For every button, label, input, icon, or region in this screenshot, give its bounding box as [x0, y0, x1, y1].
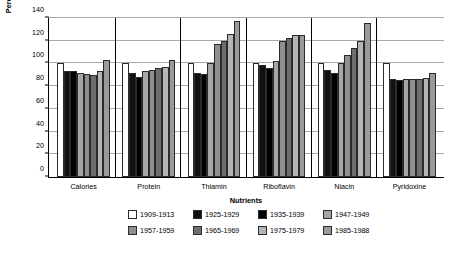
- bar: [324, 70, 331, 177]
- bar: [149, 70, 156, 177]
- legend-item[interactable]: 1957-1959: [128, 226, 193, 235]
- y-tick-label: 100: [14, 50, 44, 59]
- bar: [403, 79, 410, 177]
- bar: [279, 41, 286, 177]
- bar: [57, 63, 64, 177]
- bar: [90, 75, 97, 177]
- bar: [383, 63, 390, 177]
- legend-swatch: [128, 226, 137, 235]
- x-tick-label: Protein: [137, 182, 160, 191]
- y-tick-label: 0: [14, 164, 44, 173]
- bar: [416, 79, 423, 177]
- bar: [292, 35, 299, 177]
- bar-chart-figure: Percentage of 1909–1913 Values 020406080…: [0, 0, 460, 253]
- bar: [155, 68, 162, 177]
- y-tick-label: 120: [14, 27, 44, 36]
- y-tick-label: 140: [14, 5, 44, 14]
- bar: [423, 78, 430, 177]
- bar: [77, 73, 84, 177]
- legend-item[interactable]: 1975-1979: [258, 226, 323, 235]
- y-tick-label: 40: [14, 118, 44, 127]
- x-tick-label: Calories: [70, 182, 96, 191]
- bar: [390, 79, 397, 177]
- legend-label: 1935-1939: [270, 210, 304, 219]
- legend-swatch: [193, 210, 202, 219]
- legend-swatch: [323, 210, 332, 219]
- legend-label: 1965-1969: [205, 226, 239, 235]
- legend-swatch: [128, 210, 137, 219]
- bar: [221, 41, 228, 177]
- y-tick-label: 80: [14, 73, 44, 82]
- legend-swatch: [193, 226, 202, 235]
- bar: [234, 21, 241, 177]
- x-tick-label: Niacin: [334, 182, 354, 191]
- bar: [331, 73, 338, 177]
- legend-swatch: [258, 210, 267, 219]
- bar: [97, 71, 104, 177]
- legend-label: 1985-1988: [335, 226, 369, 235]
- bar: [129, 73, 136, 177]
- bar: [357, 41, 364, 177]
- y-tick-label: 20: [14, 141, 44, 150]
- bar: [194, 73, 201, 177]
- bar: [103, 60, 110, 177]
- bar: [64, 71, 71, 177]
- legend-label: 1975-1979: [270, 226, 304, 235]
- legend-swatch: [323, 226, 332, 235]
- legend-item[interactable]: 1909-1913: [128, 210, 193, 219]
- x-tick-label: Pyridoxine: [393, 182, 427, 191]
- bar-group: Niacin: [312, 18, 377, 177]
- bar: [207, 63, 214, 177]
- legend-label: 1925-1929: [205, 210, 239, 219]
- bar: [396, 80, 403, 177]
- bar: [338, 63, 345, 177]
- bar-group: Thiamin: [181, 18, 246, 177]
- legend-swatch: [258, 226, 267, 235]
- bar: [70, 71, 77, 177]
- bar-group: Calories: [51, 18, 116, 177]
- legend-label: 1909-1913: [140, 210, 174, 219]
- bar: [214, 44, 221, 177]
- bar: [266, 68, 273, 177]
- bar: [142, 71, 149, 177]
- bar: [253, 63, 260, 177]
- bar: [364, 23, 371, 177]
- bar: [136, 77, 143, 177]
- legend-label: 1947-1949: [335, 210, 369, 219]
- bar-group: Pyridoxine: [377, 18, 442, 177]
- bar: [169, 60, 176, 177]
- legend-label: 1957-1959: [140, 226, 174, 235]
- bar: [409, 79, 416, 177]
- y-tick-label: 60: [14, 95, 44, 104]
- legend: 1909-19131925-19291935-19391947-19491957…: [128, 210, 388, 235]
- bar: [259, 65, 266, 177]
- x-axis-title: Nutrients: [48, 196, 444, 205]
- x-tick-label: Riboflavin: [263, 182, 295, 191]
- bar-group: Protein: [116, 18, 181, 177]
- bar-group: Riboflavin: [247, 18, 312, 177]
- bar: [122, 63, 129, 177]
- legend-item[interactable]: 1925-1929: [193, 210, 258, 219]
- bar: [318, 63, 325, 177]
- plot-area: 020406080100120140 CaloriesProteinThiami…: [48, 18, 444, 178]
- legend-item[interactable]: 1935-1939: [258, 210, 323, 219]
- bar: [351, 48, 358, 177]
- bar: [162, 67, 169, 177]
- bar: [299, 35, 306, 177]
- x-tick-label: Thiamin: [201, 182, 227, 191]
- legend-item[interactable]: 1985-1988: [323, 226, 388, 235]
- bar: [227, 34, 234, 177]
- bar-groups: CaloriesProteinThiaminRiboflavinNiacinPy…: [49, 18, 444, 177]
- bar: [188, 63, 195, 177]
- bar: [84, 74, 91, 177]
- bar: [286, 38, 293, 177]
- legend-item[interactable]: 1965-1969: [193, 226, 258, 235]
- bar: [201, 74, 208, 177]
- bar: [344, 55, 351, 177]
- bar: [429, 73, 436, 177]
- legend-item[interactable]: 1947-1949: [323, 210, 388, 219]
- bar: [273, 61, 280, 177]
